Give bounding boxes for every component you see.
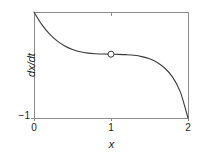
y-tick-label: −1: [0, 110, 30, 121]
x-axis-label: x: [34, 138, 189, 150]
chart-figure: dx/dt x 012−1: [0, 0, 202, 156]
x-tick-label: 0: [19, 122, 49, 133]
x-tick-label: 1: [96, 122, 126, 133]
axes-frame: [35, 13, 189, 119]
x-tick-label: 2: [173, 122, 202, 133]
fixed-point-marker: [108, 51, 114, 57]
y-axis-label: dx/dt: [24, 12, 38, 118]
fixed-point-marker: [108, 51, 114, 57]
